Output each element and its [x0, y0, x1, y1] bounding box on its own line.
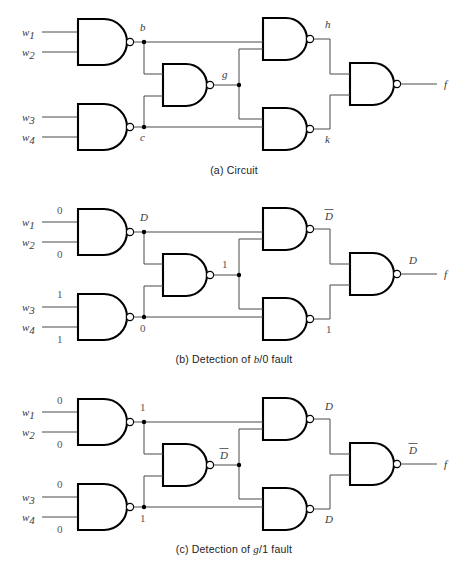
input-value-w3: 1 — [57, 288, 63, 300]
wire-c-to-g — [144, 476, 163, 507]
gate-nand-b — [78, 399, 134, 445]
node-label-c: 0 — [140, 322, 146, 334]
wire-h-to-f — [314, 229, 350, 264]
gate-nand-h — [263, 18, 314, 60]
node-label-b: D — [139, 211, 148, 223]
node-label-h: D — [324, 400, 333, 412]
circuit-panel-b: w1 w2 w3 w4 0 0 1 1 D 0 1 D 1 — [0, 190, 468, 385]
caption-c-mid: /1 — [259, 543, 268, 555]
gate-nand-k — [263, 298, 314, 340]
node-label-h-group: D — [324, 210, 334, 223]
node-label-g-group: D — [219, 449, 229, 462]
gate-nand-c — [78, 104, 134, 150]
input-label-w3: w3 — [22, 111, 35, 126]
junction-c — [142, 505, 146, 509]
gate-nand-g — [163, 64, 214, 106]
circuit-panel-c: w1 w2 w3 w4 0 0 0 0 1 1 D D D — [0, 380, 468, 586]
node-label-b: b — [140, 21, 146, 33]
wire-g-to-k — [239, 275, 263, 309]
node-label-g: 1 — [222, 258, 228, 270]
wire-c-to-g — [144, 286, 163, 317]
caption-b-suffix: fault — [269, 353, 293, 365]
caption-a-text: (a) Circuit — [210, 164, 258, 176]
input-label-w4: w4 — [22, 131, 35, 146]
input-label-w1: w1 — [22, 216, 35, 231]
node-label-c: 1 — [140, 512, 146, 524]
wire-h-to-f — [314, 39, 350, 74]
junction-c — [142, 315, 146, 319]
wire-b-to-g — [144, 422, 163, 454]
svg-text:w4: w4 — [22, 131, 35, 146]
input-label-w4: w4 — [22, 321, 35, 336]
caption-c-suffix: fault — [268, 543, 292, 555]
caption-b: (b) Detection of b/0 fault — [0, 353, 468, 365]
junction-g — [237, 83, 241, 87]
input-label-w3: w3 — [22, 491, 35, 506]
wire-c-to-g — [144, 96, 163, 127]
input-value-w4: 0 — [57, 523, 63, 535]
svg-text:w3: w3 — [22, 301, 35, 316]
node-label-f: f — [444, 458, 449, 470]
svg-text:w3: w3 — [22, 111, 35, 126]
junction-g — [237, 273, 241, 277]
node-label-f: f — [444, 268, 449, 280]
caption-c-prefix: (c) Detection of — [176, 543, 254, 555]
node-label-g: D — [219, 449, 228, 461]
input-label-w1: w1 — [22, 26, 35, 41]
wire-g-to-h — [239, 239, 263, 275]
circuit-diagram-c: w1 w2 w3 w4 0 0 0 0 1 1 D D D — [0, 380, 468, 545]
wire-g-to-h — [239, 429, 263, 465]
input-label-w2: w2 — [22, 236, 35, 251]
caption-b-prefix: (b) Detection of — [176, 353, 254, 365]
node-label-f: f — [444, 78, 449, 90]
caption-b-mid: /0 — [259, 353, 268, 365]
gate-nand-b — [78, 19, 134, 65]
wire-b-to-g — [144, 42, 163, 74]
input-value-w4: 1 — [57, 333, 63, 345]
input-value-w1: 0 — [57, 204, 63, 216]
input-label-w4: w4 — [22, 511, 35, 526]
output-value: D — [408, 254, 417, 266]
circuit-panel-a: w1 w2 w3 w4 b c g h k f (a) Circuit — [0, 0, 468, 195]
wire-k-to-f — [314, 285, 350, 319]
svg-text:w1: w1 — [22, 26, 35, 41]
node-label-h: D — [324, 210, 333, 222]
node-label-k: k — [325, 133, 331, 145]
input-label-w3: w3 — [22, 301, 35, 316]
junction-c — [142, 125, 146, 129]
gate-nand-k — [263, 108, 314, 150]
svg-text:w3: w3 — [22, 491, 35, 506]
gate-nand-f — [350, 253, 401, 295]
figure-page: w1 w2 w3 w4 b c g h k f (a) Circuit — [0, 0, 468, 586]
input-value-w2: 0 — [57, 438, 63, 450]
svg-text:w2: w2 — [22, 426, 35, 441]
caption-c: (c) Detection of g/1 fault — [0, 543, 468, 555]
input-value-w3: 0 — [57, 478, 63, 490]
wire-k-to-f — [314, 475, 350, 509]
gate-nand-h — [263, 398, 314, 440]
junction-g — [237, 463, 241, 467]
gate-nand-f — [350, 63, 401, 105]
output-value: D — [408, 444, 417, 456]
svg-text:w1: w1 — [22, 406, 35, 421]
caption-a: (a) Circuit — [0, 164, 468, 176]
circuit-diagram-a: w1 w2 w3 w4 b c g h k f — [0, 0, 468, 165]
gate-nand-k — [263, 488, 314, 530]
node-label-k: D — [324, 513, 333, 525]
input-label-w1: w1 — [22, 406, 35, 421]
circuit-diagram-b: w1 w2 w3 w4 0 0 1 1 D 0 1 D 1 — [0, 190, 468, 355]
junction-b — [142, 230, 146, 234]
svg-text:w4: w4 — [22, 321, 35, 336]
gate-nand-g — [163, 444, 214, 486]
gate-nand-h — [263, 208, 314, 250]
gate-nand-c — [78, 484, 134, 530]
wire-h-to-f — [314, 419, 350, 454]
gate-nand-c — [78, 294, 134, 340]
input-value-w1: 0 — [57, 394, 63, 406]
svg-text:w2: w2 — [22, 236, 35, 251]
input-label-w2: w2 — [22, 46, 35, 61]
gate-nand-b — [78, 209, 134, 255]
wire-k-to-f — [314, 95, 350, 129]
node-label-c: c — [140, 131, 145, 143]
output-value-group: D — [408, 444, 418, 457]
